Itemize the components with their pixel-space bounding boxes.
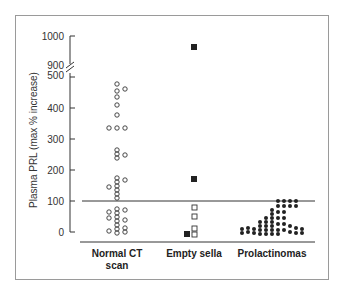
y-tick-400: 400 <box>47 103 64 114</box>
filled-square <box>184 231 190 237</box>
open-square <box>192 232 197 237</box>
open-square <box>192 205 197 210</box>
series-empty-sella <box>184 44 197 237</box>
open-square <box>192 214 197 219</box>
series-normal-ct <box>107 82 127 235</box>
scatter-chart: 1000 900 500 400 300 200 100 0 Plasma PR… <box>0 0 340 291</box>
filled-square <box>191 176 197 182</box>
category-label-normal-ct: Normal CT <box>92 248 143 259</box>
y-tick-200: 200 <box>47 165 64 176</box>
open-square <box>192 226 197 231</box>
y-tick-1000: 1000 <box>42 31 65 42</box>
y-ticks <box>70 36 75 232</box>
y-tick-300: 300 <box>47 134 64 145</box>
y-tick-500: 500 <box>47 70 64 81</box>
category-label-empty-sella: Empty sella <box>166 248 222 259</box>
series-prolactinomas <box>240 199 304 236</box>
category-label-prolactinomas: Prolactinomas <box>238 248 307 259</box>
category-label-normal-ct-line2: scan <box>106 260 129 271</box>
y-tick-0: 0 <box>58 227 64 238</box>
y-axis-title: Plasma PRL (max % increase) <box>28 72 39 208</box>
y-tick-100: 100 <box>47 196 64 207</box>
filled-square <box>191 44 197 50</box>
